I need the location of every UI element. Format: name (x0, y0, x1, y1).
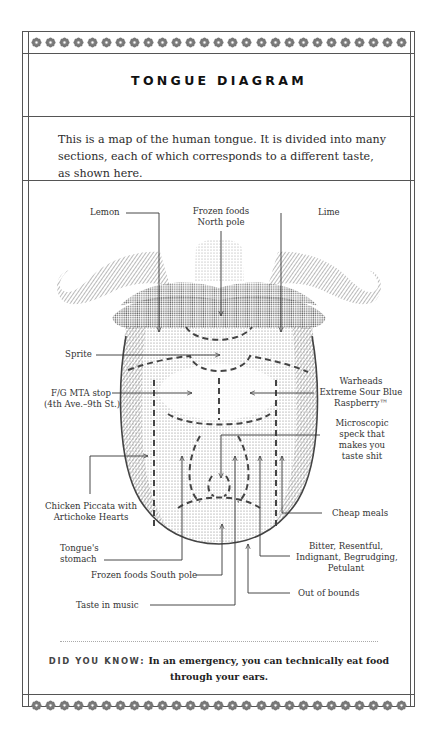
did-you-know-text: In an emergency, you can technically eat… (148, 655, 389, 682)
label-bitter-line1: Bitter, Resentful, (296, 541, 396, 552)
tongue-diagram (0, 0, 438, 747)
lip-band (112, 296, 326, 328)
did-you-know: DID YOU KNOW: In an emergency, you can t… (48, 653, 390, 685)
label-tongues-stomach: Tongue's stomach (60, 543, 99, 565)
label-speck-line1: Microscopic (326, 418, 398, 429)
label-cheap-meals: Cheap meals (332, 508, 388, 519)
label-frozen-north-line2: North pole (184, 217, 258, 228)
label-stomach-line2: stomach (60, 554, 99, 565)
did-you-know-divider (60, 641, 378, 642)
label-speck-line3: makes you (326, 440, 398, 451)
label-bitter-line2: Indignant, Begrudging, (296, 552, 396, 563)
label-chicken-line2: Artichoke Hearts (44, 512, 138, 523)
label-frozen-north-line1: Frozen foods (184, 206, 258, 217)
label-warheads-line1: Warheads (318, 376, 404, 387)
label-out-of-bounds: Out of bounds (298, 588, 360, 599)
label-warheads-line3: Raspberry™ (318, 398, 404, 409)
label-warheads: Warheads Extreme Sour Blue Raspberry™ (318, 376, 404, 409)
label-taste-in-music: Taste in music (76, 600, 139, 611)
label-frozen-north: Frozen foods North pole (184, 206, 258, 228)
label-microscopic-speck: Microscopic speck that makes you taste s… (326, 418, 398, 462)
label-lemon: Lemon (90, 207, 120, 218)
label-sprite: Sprite (65, 349, 92, 360)
label-fg-line1: F/G MTA stop (44, 388, 118, 399)
label-chicken-piccata: Chicken Piccata with Artichoke Hearts (44, 501, 138, 523)
leader-out-of-bounds (248, 544, 290, 593)
tongue-tip-upper (194, 239, 244, 282)
label-frozen-south: Frozen foods South pole (91, 570, 197, 581)
label-chicken-line1: Chicken Piccata with (44, 501, 138, 512)
label-lime: Lime (318, 207, 340, 218)
label-stomach-line1: Tongue's (60, 543, 99, 554)
label-fg-line2: (4th Ave.–9th St.) (44, 399, 118, 410)
label-fg-mta-stop: F/G MTA stop (4th Ave.–9th St.) (44, 388, 118, 410)
label-speck-line4: taste shit (326, 451, 398, 462)
did-you-know-label: DID YOU KNOW: (49, 656, 145, 666)
label-speck-line2: speck that (326, 429, 398, 440)
label-warheads-line2: Extreme Sour Blue (318, 387, 404, 398)
label-bitter: Bitter, Resentful, Indignant, Begrudging… (296, 541, 396, 574)
label-bitter-line3: Petulant (296, 563, 396, 574)
